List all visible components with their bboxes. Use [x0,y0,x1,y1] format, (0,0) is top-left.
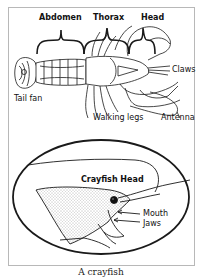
label-mouth: Mouth [143,210,168,218]
label-walking-legs: Walking legs [93,114,143,122]
segment-brackets [37,28,155,54]
label-jaws: Jaws [143,220,161,228]
figure-caption: A crayfish [0,268,202,277]
label-thorax: Thorax [93,14,124,22]
label-abdomen: Abdomen [39,14,82,22]
inset-title: Crayfish Head [81,176,144,184]
crayfish-illustration [0,0,202,280]
label-tail-fan: Tail fan [14,95,42,103]
label-claws: Claws [172,66,195,74]
label-antenna: Antenna [161,114,195,122]
label-head: Head [141,14,164,22]
